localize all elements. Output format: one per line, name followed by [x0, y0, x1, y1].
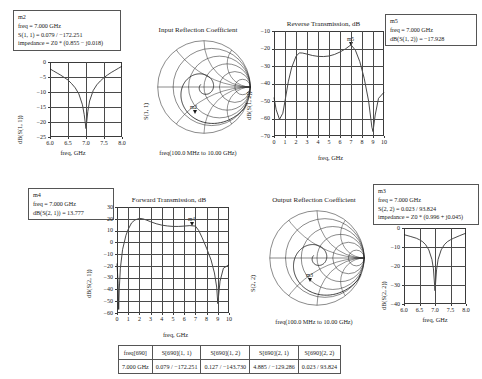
table-header-freq: freq[690]: [119, 346, 153, 360]
gridline-horizontal: [404, 285, 466, 286]
y-tick-label: −40: [376, 301, 400, 307]
y-tick-label: −5: [22, 74, 46, 80]
marker-box-m5: m5 freq = 7.000 GHz dB(S(1, 2)) = −17.92…: [385, 14, 477, 46]
gridline-horizontal: [117, 266, 229, 267]
y-tick-label: −15: [22, 104, 46, 110]
gridline-horizontal: [50, 77, 122, 78]
gridline-vertical: [86, 62, 87, 137]
chart-reverse-transmission-title: Reverse Transmission, dB: [258, 20, 389, 28]
gridline-vertical: [207, 207, 208, 313]
chart-reverse-transmission: Reverse Transmission, dB dB(S(1, 2)) m5 …: [244, 20, 389, 168]
marker-m5-line-1: freq = 7.000 GHz: [390, 26, 473, 35]
gridline-horizontal: [117, 254, 229, 255]
sparameter-report-page: m2 freq = 7.000 GHz S(1, 1) = 0.079 / −1…: [0, 0, 482, 379]
x-tick: [404, 304, 405, 306]
gridline-horizontal: [50, 107, 122, 108]
y-tick: [272, 49, 274, 50]
x-tick: [351, 136, 352, 138]
gridline-horizontal: [404, 266, 466, 267]
smith-output-ylabel: S(2, 2): [249, 275, 256, 292]
smith-output-caption: freq(100.0 MHz to 10.00 GHz): [240, 318, 388, 325]
x-tick: [68, 137, 69, 139]
y-tick-label: −60: [246, 115, 270, 121]
sparameter-table: freq[690] S[690](1, 1) S[690](1, 2) S[69…: [118, 345, 341, 374]
y-tick-label: 20: [89, 216, 113, 222]
gridline-horizontal: [274, 119, 384, 120]
y-tick: [272, 136, 274, 137]
y-tick: [402, 247, 404, 248]
x-tick-label: 10: [372, 139, 396, 145]
gridline-horizontal: [404, 247, 466, 248]
y-tick: [402, 285, 404, 286]
marker-m5-line-2: dB(S(1, 2)) = −17.928: [390, 35, 473, 44]
x-tick: [104, 137, 105, 139]
y-tick-label: −20: [89, 263, 113, 269]
gridline-horizontal: [117, 289, 229, 290]
chart-input-return-loss-xlabel: freq, GHz: [14, 149, 132, 156]
x-tick: [184, 313, 185, 315]
y-tick: [115, 219, 117, 220]
x-tick: [384, 136, 385, 138]
y-tick: [402, 304, 404, 305]
y-tick: [272, 84, 274, 85]
gridline-vertical: [151, 207, 152, 313]
gridline-vertical: [184, 207, 185, 313]
y-tick-label: −50: [89, 298, 113, 304]
y-tick-label: −20: [246, 45, 270, 51]
y-tick-label: −25: [22, 134, 46, 140]
x-tick: [329, 136, 330, 138]
y-tick: [115, 313, 117, 314]
table-header-s12: S[690](1, 2): [201, 346, 250, 360]
table-cell-s21: 4.885 / −129.286: [250, 360, 299, 374]
chart-forward-transmission-marker-triangle: [190, 222, 194, 226]
smith-input-title: Input Reflection Coefficient: [138, 26, 258, 34]
y-tick: [272, 31, 274, 32]
x-tick: [420, 304, 421, 306]
gridline-horizontal: [274, 84, 384, 85]
chart-output-return-loss: dB(S(2, 2)) freq, GHz 6.06.57.07.58.00−1…: [378, 224, 482, 328]
y-tick: [48, 77, 50, 78]
y-tick-label: −50: [246, 98, 270, 104]
chart-forward-transmission-xlabel: freq, GHz: [115, 331, 236, 338]
gridline-horizontal: [50, 92, 122, 93]
gridline-vertical: [68, 62, 69, 137]
x-tick: [218, 313, 219, 315]
x-tick: [139, 313, 140, 315]
marker-m2-line-0: m2: [18, 13, 117, 22]
y-tick-label: −40: [89, 286, 113, 292]
x-tick: [307, 136, 308, 138]
table-header-row: freq[690] S[690](1, 1) S[690](1, 2) S[69…: [119, 346, 341, 360]
smith-chart-input-reflection: Input Reflection Coefficient S(1, 1) m2 …: [138, 26, 258, 166]
y-tick-label: −30: [246, 63, 270, 69]
y-tick: [115, 301, 117, 302]
chart-output-return-loss-xlabel: freq, GHz: [388, 316, 482, 323]
y-tick-label: −20: [22, 119, 46, 125]
marker-m2-line-3: impedance = Z0 * (0.855 − j0.018): [18, 39, 117, 48]
table-row: 7.000 GHz 0.079 / −172.251 0.127 / −143.…: [119, 360, 341, 374]
gridline-horizontal: [117, 219, 229, 220]
gridline-horizontal: [117, 278, 229, 279]
y-tick: [115, 254, 117, 255]
smith-output-canvas: [266, 207, 368, 309]
marker-m3-line-3: impedance = Z0 * (0.996 + j0.045): [378, 213, 475, 222]
smith-input-marker-triangle: [193, 110, 197, 114]
y-tick-label: −70: [246, 133, 270, 139]
x-tick-label: 8.0: [454, 307, 478, 313]
gridline-vertical: [139, 207, 140, 313]
y-tick: [48, 137, 50, 138]
smith-input-caption: freq(100.0 MHz to 10.00 GHz): [138, 149, 258, 156]
smith-output-title: Output Reflection Coefficient: [240, 196, 388, 204]
table-header-s11: S[690](1, 1): [152, 346, 201, 360]
y-tick: [115, 207, 117, 208]
x-tick: [340, 136, 341, 138]
marker-m5-line-0: m5: [390, 17, 473, 26]
table-header-s22: S[690](2, 2): [298, 346, 340, 360]
y-tick-label: 0: [376, 225, 400, 231]
y-tick: [48, 62, 50, 63]
x-tick-label: 10: [217, 316, 241, 322]
x-tick: [451, 304, 452, 306]
x-tick: [117, 313, 118, 315]
gridline-horizontal: [117, 301, 229, 302]
x-tick: [466, 304, 467, 306]
marker-box-m2: m2 freq = 7.000 GHz S(1, 1) = 0.079 / −1…: [13, 10, 121, 51]
